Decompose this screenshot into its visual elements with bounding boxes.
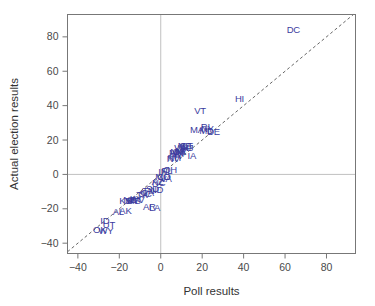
y-tick-label: 40	[47, 99, 59, 111]
data-point-label: IA	[188, 150, 197, 161]
x-tick-label: 0	[158, 261, 164, 273]
y-tick-label: 60	[47, 65, 59, 77]
y-tick-label: 80	[47, 30, 59, 42]
x-tick-label: −40	[69, 261, 87, 273]
x-tick-label: 60	[279, 261, 291, 273]
y-tick-label: −40	[41, 237, 59, 249]
y-tick-label: 20	[47, 134, 59, 146]
y-axis-title: Actual election results	[8, 78, 20, 190]
data-point-label: HI	[235, 93, 244, 104]
x-tick-label: 40	[238, 261, 250, 273]
data-point-label: MD	[199, 125, 214, 136]
x-tick-label: 20	[196, 261, 208, 273]
data-point-label: WY	[98, 225, 114, 236]
y-tick-label: −20	[41, 202, 59, 214]
data-point-label: AK	[119, 205, 132, 216]
x-axis-title: Poll results	[183, 285, 239, 297]
y-tick-label: 0	[53, 168, 59, 180]
x-tick-label: 80	[321, 261, 333, 273]
data-point-label: DC	[287, 24, 301, 35]
data-point-label: VT	[194, 105, 206, 116]
scatter-plot: −40−20020406080−40−20020406080Poll resul…	[0, 0, 375, 306]
chart-figure: −40−20020406080−40−20020406080Poll resul…	[0, 0, 375, 306]
x-tick-label: −20	[110, 261, 128, 273]
data-point-label: LA	[149, 202, 161, 213]
